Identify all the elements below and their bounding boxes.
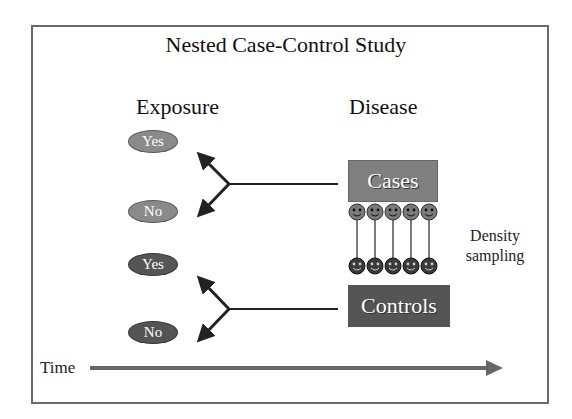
cases-branch-arrows bbox=[203, 158, 338, 211]
controls-branch-arrows bbox=[203, 282, 338, 336]
matching-lines bbox=[357, 220, 429, 258]
time-arrow-icon bbox=[90, 360, 503, 376]
control-smiley-icons bbox=[349, 258, 437, 274]
case-smiley-icons bbox=[349, 204, 437, 220]
diagram-lines bbox=[0, 0, 572, 419]
